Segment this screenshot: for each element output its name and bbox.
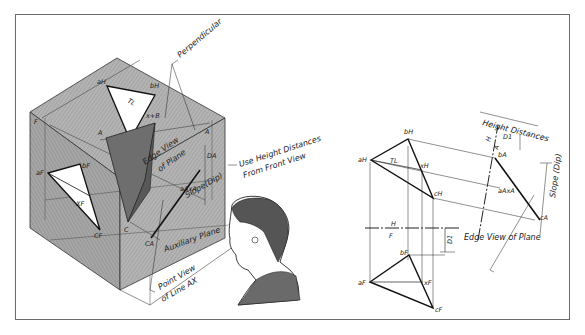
label-ortho-cH: cH xyxy=(434,190,443,198)
label-edge-view-of-plane: Edge View of Plane xyxy=(464,233,541,242)
label-ortho-bA: bA xyxy=(498,151,507,159)
label-xb: x+B xyxy=(145,112,160,120)
label-a-right: A xyxy=(204,128,209,136)
label-ortho-xH: xH xyxy=(419,162,429,170)
label-slope-ortho: Slope (Dip) xyxy=(548,153,563,198)
label-fold-h-top: H xyxy=(484,136,493,143)
label-fold-f: F xyxy=(389,232,393,240)
observer-illustration xyxy=(229,196,300,305)
orthographic-views xyxy=(365,112,552,308)
label-d1-top: D1 xyxy=(503,133,512,141)
label-ortho-tl: TL xyxy=(390,157,398,165)
label-xF: XF xyxy=(75,200,84,208)
label-dA: DA xyxy=(207,152,216,160)
label-ortho-bF: bF xyxy=(400,249,408,257)
label-aF: aF xyxy=(36,169,44,177)
label-d1-bottom: D1 xyxy=(446,235,454,244)
label-fold-h: H xyxy=(391,220,396,228)
label-bH: bH xyxy=(150,82,159,90)
label-cA: CA xyxy=(145,240,154,248)
label-ortho-cF: cF xyxy=(435,306,443,314)
label-aH: aH xyxy=(97,78,106,86)
label-ortho-aF: aF xyxy=(358,279,366,287)
label-ortho-bH: bH xyxy=(404,128,413,136)
label-a-left: A xyxy=(97,129,102,137)
label-perpendicular: Perpendicular xyxy=(176,17,225,60)
label-ortho-cA: cA xyxy=(540,214,548,222)
label-ortho-aH: aH xyxy=(358,156,367,164)
label-bF: bF xyxy=(82,162,90,170)
figure-drawing: aH bH TL x+B A A F DA aF bF XF CF C CA a… xyxy=(0,0,585,335)
label-cF: CF xyxy=(94,232,103,240)
label-f: F xyxy=(34,118,38,126)
label-ortho-aAxA: aAxA xyxy=(498,187,515,195)
label-ortho-xF: xF xyxy=(423,279,432,287)
label-c: C xyxy=(124,226,129,234)
orthographic-labels: Height Distances D1 H A Slope (Dip) Edge… xyxy=(358,118,563,314)
